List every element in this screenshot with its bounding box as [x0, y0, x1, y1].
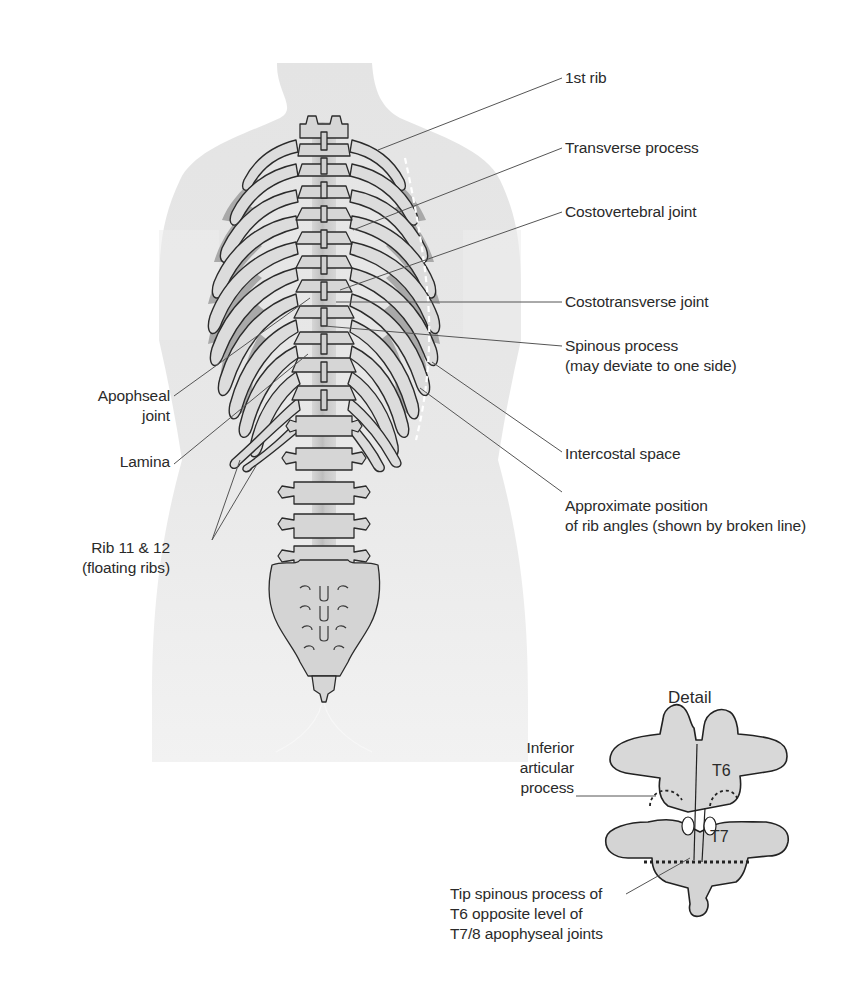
detail-vertebrae [606, 705, 789, 917]
label-first-rib: 1st rib [565, 68, 607, 88]
vertebra-label-t6: T6 [712, 762, 731, 779]
label-lamina: Lamina [120, 452, 170, 472]
label-costotransverse-joint: Costotransverse joint [565, 292, 709, 312]
vertebra-label-t7: T7 [710, 828, 729, 845]
vertebra-t7 [606, 820, 789, 916]
label-transverse-process: Transverse process [565, 138, 699, 158]
label-floating-ribs: Rib 11 & 12 (floating ribs) [82, 538, 170, 578]
label-rib-angles: Approximate position of rib angles (show… [565, 496, 806, 536]
skeleton-illustration: T6 T7 [0, 0, 866, 988]
label-inferior-articular-process: Inferior articular process [520, 738, 574, 798]
detail-title: Detail [668, 688, 711, 708]
label-tip-spinous-process: Tip spinous process of T6 opposite level… [450, 884, 603, 944]
label-intercostal-space: Intercostal space [565, 444, 680, 464]
label-apophseal-joint: Apophseal joint [98, 386, 170, 426]
anatomy-figure: T6 T7 1st rib Transverse process Costove… [0, 0, 866, 988]
label-spinous-process: Spinous process (may deviate to one side… [565, 336, 737, 376]
label-costovertebral-joint: Costovertebral joint [565, 202, 697, 222]
